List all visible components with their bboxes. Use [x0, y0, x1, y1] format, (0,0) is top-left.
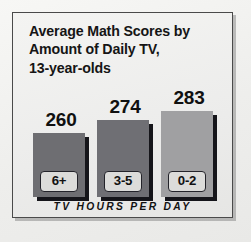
chart-title: Average Math Scores by Amount of Daily T… [29, 22, 225, 77]
bar-value-label: 260 [33, 110, 89, 129]
bar: 3-5 [97, 120, 149, 197]
plot-area: 260 6+ 274 3-5 283 0-2 [27, 85, 221, 197]
chart-title-line-2: Amount of Daily TV, [29, 40, 225, 58]
x-axis-label: TV HOURS PER DAY [13, 201, 232, 212]
bar-value-label: 283 [161, 88, 217, 107]
page-background: Average Math Scores by Amount of Daily T… [0, 0, 251, 242]
bar-group: 260 6+ [33, 85, 89, 197]
chart-frame: Average Math Scores by Amount of Daily T… [12, 12, 233, 218]
bar-group: 274 3-5 [97, 85, 153, 197]
bar-category-chip: 0-2 [168, 171, 206, 192]
bar-group: 283 0-2 [161, 85, 217, 197]
bar-category-chip: 6+ [40, 171, 78, 192]
bar-category-chip: 3-5 [104, 171, 142, 192]
bar: 6+ [33, 133, 85, 197]
chart-title-line-3: 13-year-olds [29, 59, 225, 77]
bar-value-label: 274 [97, 97, 153, 116]
bar: 0-2 [161, 111, 213, 197]
chart-title-line-1: Average Math Scores by [29, 22, 225, 40]
